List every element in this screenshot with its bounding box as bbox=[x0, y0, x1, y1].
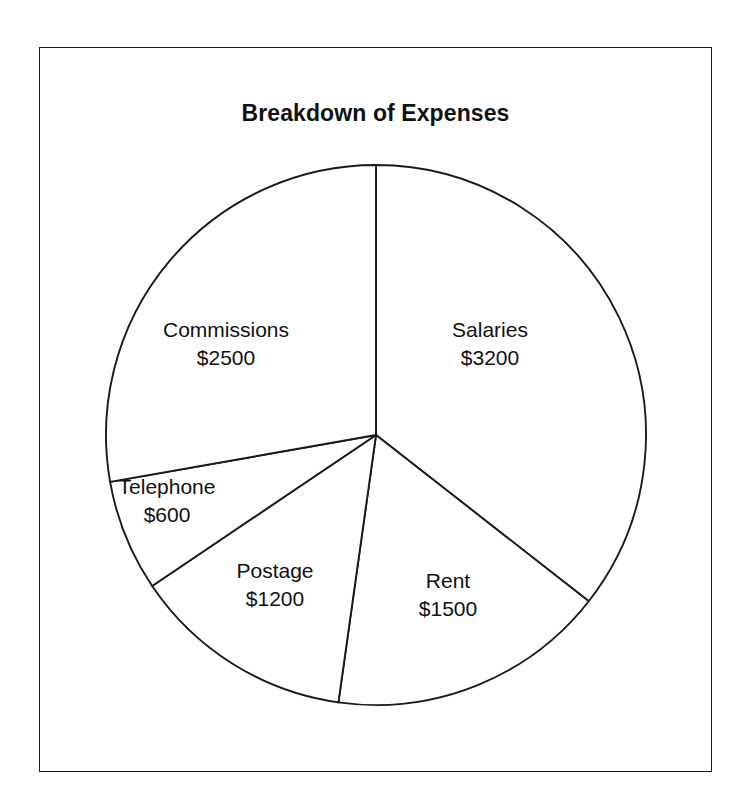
pie-chart bbox=[40, 48, 713, 773]
figure-frame: Breakdown of Expenses Salaries$3200Rent$… bbox=[39, 47, 712, 772]
pie-slice-commissions bbox=[106, 165, 376, 482]
